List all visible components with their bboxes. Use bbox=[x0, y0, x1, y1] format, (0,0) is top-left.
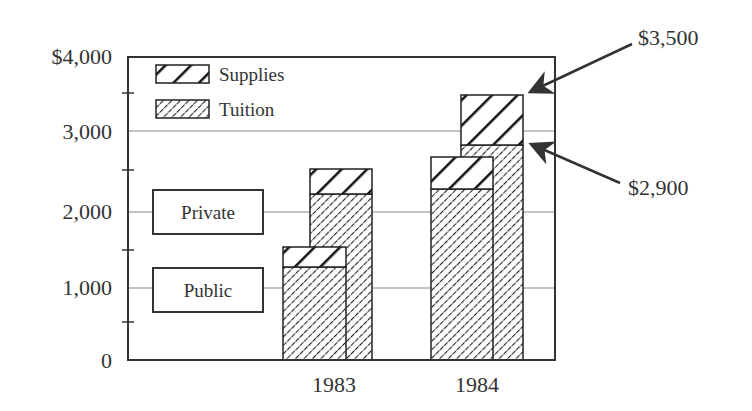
legend-swatch-supplies bbox=[156, 65, 209, 83]
bars-1983 bbox=[283, 169, 372, 360]
legend: Supplies Tuition bbox=[156, 64, 284, 120]
public-label: Public bbox=[184, 280, 233, 301]
x-axis-labels: 1983 1984 bbox=[312, 372, 499, 397]
arrow-2900-icon bbox=[533, 145, 620, 183]
bar-1983-public-supplies bbox=[283, 247, 346, 267]
y-tick-4000: $4,000 bbox=[52, 44, 113, 69]
stacked-bar-chart: 0 1,000 2,000 3,000 $4,000 Supplies Tuit… bbox=[0, 0, 752, 411]
bars-1984 bbox=[431, 95, 523, 360]
annotation-2900: $2,900 bbox=[628, 175, 689, 200]
bar-1983-private-supplies bbox=[310, 169, 372, 194]
legend-label-tuition: Tuition bbox=[219, 99, 275, 120]
legend-swatch-tuition bbox=[156, 100, 209, 118]
bar-1983-public-tuition bbox=[283, 267, 346, 360]
bar-1984-public-supplies bbox=[431, 157, 493, 189]
category-1984: 1984 bbox=[455, 372, 499, 397]
y-axis-labels: 0 1,000 2,000 3,000 $4,000 bbox=[52, 44, 113, 373]
y-tick-2000: 2,000 bbox=[63, 199, 113, 224]
bar-1984-public-tuition bbox=[431, 189, 493, 360]
private-label: Private bbox=[181, 202, 235, 223]
bar-1984-private-supplies bbox=[461, 95, 523, 145]
category-1983: 1983 bbox=[312, 372, 356, 397]
annotations: $3,500 $2,900 bbox=[532, 25, 699, 200]
y-tick-0: 0 bbox=[101, 348, 112, 373]
annotation-3500: $3,500 bbox=[638, 25, 699, 50]
y-tick-3000: 3,000 bbox=[63, 119, 113, 144]
legend-label-supplies: Supplies bbox=[219, 64, 284, 85]
arrow-3500-icon bbox=[532, 44, 632, 91]
group-labels: Private Public bbox=[153, 190, 263, 312]
y-tick-1000: 1,000 bbox=[63, 275, 113, 300]
